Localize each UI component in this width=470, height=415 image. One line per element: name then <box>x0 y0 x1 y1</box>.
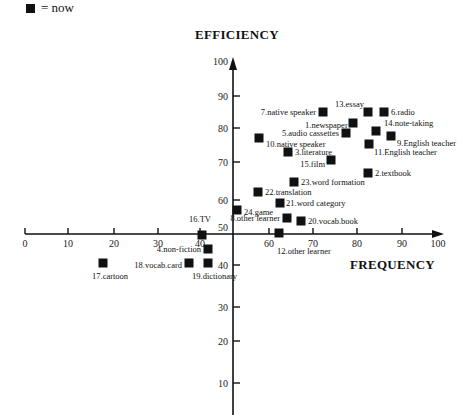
data-point-marker <box>254 188 263 197</box>
y-tick-label: 10 <box>218 378 228 389</box>
y-tick-label: 90 <box>218 91 228 102</box>
data-point-marker <box>349 119 358 128</box>
data-point-marker <box>99 259 108 268</box>
data-point-marker <box>380 108 389 117</box>
data-point-marker <box>276 199 285 208</box>
data-point-label: 21.word category <box>286 198 346 208</box>
data-point-label: 20.vocab.book <box>308 216 359 226</box>
data-point-marker <box>387 132 396 141</box>
data-point-label: 16.TV <box>189 214 212 224</box>
data-point-label: 6.radio <box>391 107 415 117</box>
x-tick-label: 0 <box>23 238 28 249</box>
data-point-label: 7.native speaker <box>261 107 316 117</box>
x-tick-label: 90 <box>397 238 407 249</box>
y-tick-label: 60 <box>218 195 228 206</box>
data-point-marker <box>365 140 374 149</box>
data-point-marker <box>364 108 373 117</box>
data-point-label: 5.audio cassettes <box>282 128 339 138</box>
y-tick-label: 80 <box>218 123 228 134</box>
data-point-marker <box>275 229 284 238</box>
data-point-marker <box>283 214 292 223</box>
data-point-marker <box>364 169 373 178</box>
data-point-marker <box>319 108 328 117</box>
x-tick-label: 80 <box>352 238 362 249</box>
x-tick-label: 60 <box>264 238 274 249</box>
data-point-marker <box>297 217 306 226</box>
y-tick-label: 100 <box>213 56 228 67</box>
data-point-label: 10.native speaker <box>266 139 326 149</box>
data-point-marker <box>342 129 351 138</box>
data-point-label: 17.cartoon <box>92 271 129 281</box>
data-point-label: 12.other learner <box>277 246 331 256</box>
x-axis-arrow-icon <box>432 230 444 238</box>
data-point-marker <box>204 259 213 268</box>
data-point-label: 24.game <box>244 207 273 217</box>
y-tick-label: 70 <box>218 157 228 168</box>
data-point-label: 14.note-taking <box>384 118 434 128</box>
data-point-label: 19.dictionary <box>192 271 238 281</box>
data-point-label: 2.textbook <box>375 168 412 178</box>
data-point-marker <box>372 127 381 136</box>
data-point-label: 11.English teacher <box>374 147 437 157</box>
data-point-label: 4.non-fiction <box>157 244 202 254</box>
scatter-plot: 0102030406070809010090807060403020101005… <box>0 0 470 415</box>
data-point-label: 23.word formation <box>301 177 365 187</box>
x-tick-label: 20 <box>109 238 119 249</box>
data-point-marker <box>198 231 207 240</box>
y-axis-arrow-icon <box>229 57 237 70</box>
data-point-marker <box>255 134 264 143</box>
y-tick-label: 30 <box>218 302 228 313</box>
data-point-label: 18.vocab.card <box>134 260 182 270</box>
x-tick-label: 10 <box>63 238 73 249</box>
origin-label: 50 <box>218 222 228 233</box>
data-point-marker <box>204 245 213 254</box>
data-point-label: 22.translation <box>265 187 312 197</box>
data-point-marker <box>185 259 194 268</box>
y-tick-label: 20 <box>218 336 228 347</box>
data-point-label: 15.film <box>300 159 325 169</box>
data-point-marker <box>233 206 242 215</box>
x-tick-label: 100 <box>431 238 446 249</box>
data-point-marker <box>290 178 299 187</box>
data-point-marker <box>327 156 336 165</box>
data-point-label: 13.essay <box>335 99 365 109</box>
data-points: 1.newspaper2.textbook3.literature4.non-f… <box>92 99 456 281</box>
y-tick-label: 40 <box>218 260 228 271</box>
